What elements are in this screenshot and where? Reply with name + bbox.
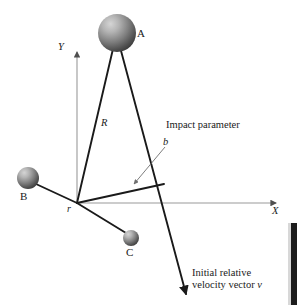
sphere-b-connector-line <box>36 184 77 203</box>
sphere-a <box>98 14 136 52</box>
impact-parameter-line <box>77 184 164 203</box>
impact-parameter-text-label: Impact parameter <box>166 119 240 131</box>
sphere-c-label: C <box>126 246 133 259</box>
origin-r-label: r <box>67 203 71 215</box>
sphere-c-connector-line <box>77 203 126 233</box>
page-edge-bar <box>291 223 297 305</box>
radius-r-label: R <box>101 117 107 129</box>
diagram-canvas <box>0 0 297 305</box>
sphere-a-label: A <box>137 27 145 40</box>
velocity-caption-line-1: Initial relative <box>192 267 262 279</box>
velocity-caption-line-2-text: velocity vector <box>192 279 257 290</box>
x-axis-label: X <box>272 205 278 217</box>
velocity-symbol: v <box>257 279 262 290</box>
velocity-caption-line-2: velocity vector v <box>192 279 262 291</box>
velocity-vector-caption: Initial relative velocity vector v <box>192 267 262 292</box>
sphere-c <box>123 230 139 246</box>
y-axis-label: Y <box>58 41 64 53</box>
impact-parameter-symbol-label: b <box>163 136 168 148</box>
sphere-b-label: B <box>20 190 27 203</box>
scattering-diagram-figure: A B C Y X R r b Impact parameter Initial… <box>0 0 297 305</box>
radius-R-line <box>77 36 116 203</box>
impact-parameter-leader-line <box>134 147 165 184</box>
sphere-b <box>17 167 39 189</box>
